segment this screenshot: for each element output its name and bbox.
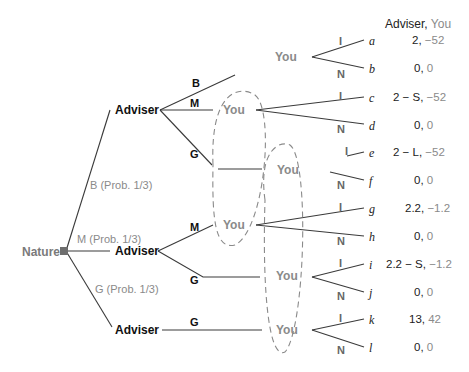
payoff-adviser: 0, xyxy=(414,174,424,186)
action-n-5: N xyxy=(337,291,345,302)
payoff-k: 13, 42 xyxy=(409,314,441,326)
payoff-adviser: 0, xyxy=(414,286,424,298)
branch-adv2-g xyxy=(158,251,260,277)
payoff-adviser: 2, xyxy=(412,34,422,46)
payoff-adviser: 0, xyxy=(414,341,424,353)
nature-label: Nature xyxy=(22,246,60,258)
payoff-c: 2 − S, −52 xyxy=(393,92,446,104)
terminal-a: a xyxy=(369,35,375,47)
payoff-adviser: 0, xyxy=(414,119,424,131)
payoff-adviser: 2.2 − S, xyxy=(386,258,426,270)
terminal-e: e xyxy=(369,147,374,159)
branch-you3-n xyxy=(330,172,364,180)
terminal-k: k xyxy=(369,314,374,326)
terminal-l: l xyxy=(369,342,372,354)
payoff-e: 2 − L, −52 xyxy=(393,147,445,159)
payoff-a: 2, −52 xyxy=(412,35,444,47)
action-n-6: N xyxy=(337,345,345,356)
game-tree xyxy=(0,0,469,372)
action-b: B xyxy=(192,78,200,89)
header-player1: Adviser, xyxy=(385,17,428,31)
branch-adv1-g xyxy=(160,110,212,165)
branch-you4-i xyxy=(256,208,364,225)
payoff-j: 0, 0 xyxy=(414,287,433,299)
terminal-h: h xyxy=(369,231,375,243)
header-player2: You xyxy=(431,17,451,31)
action-m: M xyxy=(190,98,199,109)
payoff-header: Adviser, You xyxy=(385,18,451,30)
action-i-5: I xyxy=(339,258,342,269)
action-i-2: I xyxy=(339,91,342,102)
action-i-4: I xyxy=(339,202,342,213)
action-n-1: N xyxy=(337,69,345,80)
terminal-g: g xyxy=(369,203,375,215)
action-g-3: G xyxy=(190,317,199,328)
action-n-4: N xyxy=(337,236,345,247)
adviser-node-2: Adviser xyxy=(115,245,159,257)
payoff-you: −1.2 xyxy=(429,258,452,270)
terminal-i: i xyxy=(369,259,372,271)
you-node-1: You xyxy=(275,51,297,63)
payoff-adviser: 13, xyxy=(409,313,425,325)
you-node-3: You xyxy=(277,164,299,176)
action-g: G xyxy=(190,149,199,160)
payoff-you: 0 xyxy=(427,230,433,242)
payoff-you: 42 xyxy=(428,313,441,325)
branch-you2-n xyxy=(256,110,364,124)
payoff-you: −52 xyxy=(425,146,445,158)
payoff-i: 2.2 − S, −1.2 xyxy=(386,259,452,271)
payoff-you: 0 xyxy=(427,119,433,131)
terminal-d: d xyxy=(369,120,375,132)
branch-you2-i xyxy=(256,97,364,110)
payoff-adviser: 0, xyxy=(414,230,424,242)
payoff-g: 2.2, −1.2 xyxy=(405,203,450,215)
action-i-6: I xyxy=(339,313,342,324)
prob-label-b: B (Prob. 1/3) xyxy=(90,180,152,191)
payoff-b: 0, 0 xyxy=(414,63,433,75)
adviser-node-3: Adviser xyxy=(115,324,159,336)
payoff-l: 0, 0 xyxy=(414,342,433,354)
payoff-f: 0, 0 xyxy=(414,175,433,187)
payoff-adviser: 2.2, xyxy=(405,202,424,214)
branch-adv2-m xyxy=(158,225,213,251)
payoff-adviser: 2 − L, xyxy=(393,146,422,158)
terminal-b: b xyxy=(369,63,375,75)
prob-label-g: G (Prob. 1/3) xyxy=(95,284,159,295)
payoff-adviser: 0, xyxy=(414,62,424,74)
action-i-1: I xyxy=(339,36,342,47)
payoff-you: −52 xyxy=(425,34,445,46)
action-n-2: N xyxy=(337,124,345,135)
payoff-h: 0, 0 xyxy=(414,231,433,243)
payoff-you: 0 xyxy=(427,286,433,298)
terminal-f: f xyxy=(369,175,372,187)
branch-you5-i xyxy=(312,264,364,277)
payoff-d: 0, 0 xyxy=(414,120,433,132)
terminal-j: j xyxy=(369,287,372,299)
payoff-you: −1.2 xyxy=(427,202,450,214)
you-node-5: You xyxy=(276,270,298,282)
you-node-6: You xyxy=(276,324,298,336)
payoff-you: −52 xyxy=(427,91,447,103)
payoff-you: 0 xyxy=(427,174,433,186)
adviser-node-1: Adviser xyxy=(115,104,159,116)
branch-you6-i xyxy=(312,319,364,330)
branch-you1-i xyxy=(312,40,364,57)
nature-node xyxy=(60,247,68,255)
action-g-2: G xyxy=(190,275,199,286)
branch-you5-n xyxy=(256,225,364,236)
action-n-3: N xyxy=(337,180,345,191)
terminal-c: c xyxy=(369,92,374,104)
you-node-4: You xyxy=(223,219,245,231)
you-node-2: You xyxy=(223,104,245,116)
payoff-you: 0 xyxy=(427,341,433,353)
action-m-2: M xyxy=(190,222,199,233)
payoff-you: 0 xyxy=(427,62,433,74)
branch-you1-n xyxy=(312,57,364,68)
action-i-3: I xyxy=(345,146,348,157)
branch-you3-i xyxy=(347,152,364,156)
payoff-adviser: 2 − S, xyxy=(393,91,423,103)
